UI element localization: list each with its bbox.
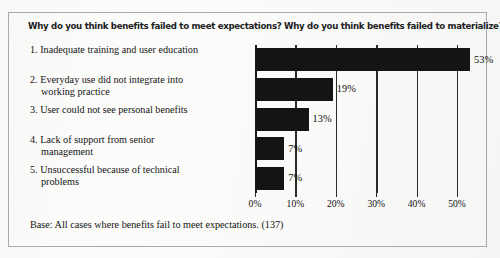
- x-tick-label-10%: 10%: [287, 198, 305, 209]
- bar-value-label-4: 7%: [288, 143, 302, 154]
- category-label-5-line-2: problems: [30, 176, 243, 188]
- x-tick-mark-40%: [417, 193, 418, 197]
- bar-4: [256, 137, 284, 160]
- x-tick-label-50%: 50%: [448, 198, 466, 209]
- x-tick-mark-50%: [457, 193, 458, 197]
- category-label-1: 1. Inadequate training and user educatio…: [30, 44, 243, 56]
- category-label-1-line-2: education: [158, 44, 198, 55]
- bar-5: [256, 167, 284, 190]
- bar-1: [256, 48, 470, 71]
- x-tick-mark-30%: [376, 193, 377, 197]
- bar-3: [256, 108, 309, 131]
- bar-2: [256, 78, 333, 101]
- category-label-2-line-2: working practice: [30, 86, 243, 98]
- category-label-4-line-1: 4. Lack of support from senior: [30, 134, 154, 145]
- category-label-3-line-1: 3. User could not see personal benefits: [30, 104, 188, 115]
- x-tick-mark-20%: [336, 193, 337, 197]
- category-label-4: 4. Lack of support from senior managemen…: [30, 134, 243, 158]
- category-label-1-line-1: 1. Inadequate training and user: [30, 44, 156, 55]
- x-tick-label-40%: 40%: [408, 198, 426, 209]
- x-tick-label-20%: 20%: [327, 198, 345, 209]
- x-tick-mark-10%: [295, 193, 296, 197]
- category-label-list: 1. Inadequate training and user educatio…: [30, 44, 245, 196]
- plot-area: 53%19%13%7%7% 0%10%20%30%40%50%: [255, 45, 457, 193]
- category-label-5: 5. Unsuccessful because of technical pro…: [30, 164, 243, 188]
- category-label-2: 2. Everyday use did not integrate into w…: [30, 74, 243, 98]
- x-tick-label-0%: 0%: [249, 198, 262, 209]
- bar-value-label-1: 53%: [474, 54, 493, 65]
- chart-title: Why do you think benefits failed to meet…: [28, 20, 447, 31]
- category-label-3: 3. User could not see personal benefits: [30, 104, 243, 116]
- x-tick-mark-0%: [255, 193, 256, 197]
- bar-value-label-5: 7%: [288, 172, 302, 183]
- category-label-2-line-1: 2. Everyday use did not integrate into: [30, 74, 183, 85]
- category-label-4-line-2: management: [30, 146, 243, 158]
- x-tick-label-30%: 30%: [367, 198, 385, 209]
- category-label-5-line-1: 5. Unsuccessful because of technical: [30, 164, 180, 175]
- base-note: Base: All cases where benefits fail to m…: [30, 219, 283, 230]
- bar-value-label-3: 13%: [313, 113, 332, 124]
- bar-value-label-2: 19%: [337, 83, 356, 94]
